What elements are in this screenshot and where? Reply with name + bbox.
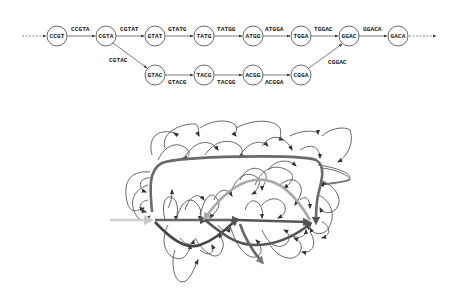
- svg-text:CCGT: CCGT: [50, 33, 65, 40]
- de-bruijn-diagram: CCGTA CGTAT GTATG TATGG ATGGA TGGAC GGAC…: [0, 0, 457, 295]
- edge-label: GTACG: [168, 79, 187, 86]
- branch-in-label: CGGAC: [328, 59, 347, 66]
- node-tgga: TGGA: [291, 26, 311, 46]
- svg-text:TACG: TACG: [197, 72, 212, 79]
- node-cgta: CGTA: [96, 26, 116, 46]
- edge-label: GGACA: [363, 26, 382, 33]
- node-atgg: ATGG: [243, 26, 263, 46]
- linear-debruijn-path: CCGTA CGTAT GTATG TATGG ATGGA TGGAC GGAC…: [22, 26, 436, 86]
- branch-out-label: CGTAC: [109, 57, 128, 64]
- edge-label: GTATG: [168, 26, 187, 33]
- highlight-path-light-arc: [205, 180, 310, 220]
- svg-text:GACA: GACA: [391, 33, 406, 40]
- svg-text:TATG: TATG: [197, 33, 212, 40]
- edge-label: ACGGA: [265, 79, 284, 86]
- node-cgga: CGGA: [291, 65, 311, 85]
- node-gaca: GACA: [388, 26, 408, 46]
- svg-text:CGTA: CGTA: [99, 33, 114, 40]
- edge-label: TGGAC: [314, 26, 333, 33]
- svg-text:GTAT: GTAT: [148, 33, 163, 40]
- node-tatg: TATG: [194, 26, 214, 46]
- svg-text:CGGA: CGGA: [294, 72, 309, 79]
- edge-label: TATGG: [217, 26, 236, 33]
- edge-cgta-gtac: [113, 43, 147, 68]
- highlight-path-backbone-3: [237, 220, 308, 222]
- node-ccgt: CCGT: [47, 26, 67, 46]
- highlight-path-upper-loop: [151, 156, 323, 222]
- edge-label: ATGGA: [265, 26, 284, 33]
- edge-label: TACGG: [217, 79, 236, 86]
- svg-text:ATGG: ATGG: [246, 33, 261, 40]
- tangled-repeat-graph: [110, 121, 351, 282]
- node-ggac: GGAC: [339, 26, 359, 46]
- node-gtat: GTAT: [145, 26, 165, 46]
- svg-text:TGGA: TGGA: [294, 33, 309, 40]
- edge-label: CCGTA: [71, 26, 90, 33]
- svg-text:ACGG: ACGG: [246, 72, 261, 79]
- svg-text:GTAC: GTAC: [148, 72, 163, 79]
- edge-label: CGTAT: [120, 26, 139, 33]
- svg-text:GGAC: GGAC: [342, 33, 357, 40]
- node-gtac: GTAC: [145, 65, 165, 85]
- node-tacg: TACG: [194, 65, 214, 85]
- node-acgg: ACGG: [243, 65, 263, 85]
